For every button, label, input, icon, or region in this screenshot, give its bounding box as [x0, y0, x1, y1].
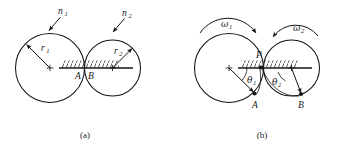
panel-b-contact-point-dot	[259, 65, 263, 69]
panel-a-left-radius-subscript: 1	[46, 47, 49, 54]
figure-svg: n 1 n 2 r 1 r 2 A B (a)	[0, 0, 352, 147]
panel-a-right-radius-label: r	[114, 46, 118, 56]
panel-b-left-point-leader	[256, 69, 261, 95]
panel-b-right-radius-arrow	[292, 68, 302, 93]
figure-container: n 1 n 2 r 1 r 2 A B (a)	[0, 0, 352, 147]
panel-b-point-a-label: A	[251, 100, 258, 110]
panel-a-contact-right-label: B	[88, 71, 94, 81]
panel-a-left-speed-subscript: 1	[65, 10, 68, 17]
panel-b-contact-point-label: P	[255, 50, 262, 60]
panel-a-right-speed-label: n	[122, 8, 127, 18]
panel-a-left-speed-arrow	[49, 17, 61, 31]
panel-a-left-speed-label: n	[58, 6, 63, 16]
panel-b-right-angle-arc	[278, 72, 286, 81]
panel-a: n 1 n 2 r 1 r 2 A B (a)	[16, 6, 141, 140]
panel-a-left-radius-label: r	[41, 43, 45, 53]
panel-b-right-angle-subscript: 2	[278, 81, 282, 88]
panel-b-caption: (b)	[257, 130, 268, 140]
panel-a-caption: (a)	[80, 130, 90, 140]
panel-b-left-angle-subscript: 1	[253, 79, 256, 86]
panel-b-left-omega-subscript: 1	[229, 23, 232, 30]
panel-a-right-speed-arrow	[113, 19, 125, 33]
panel-a-hatched-surface	[62, 61, 119, 68]
panel-b-left-omega-label: ω	[221, 19, 229, 29]
panel-b-point-b-dot	[299, 92, 303, 96]
panel-b: ω 1 ω 2 P θ 1 θ 2 A B (b)	[195, 18, 320, 140]
panel-a-right-radius-subscript: 2	[119, 50, 123, 57]
panel-a-contact-left-label: A	[74, 71, 81, 81]
panel-b-right-omega-label: ω	[293, 23, 301, 33]
panel-b-point-b-label: B	[298, 100, 304, 110]
panel-a-right-speed-subscript: 2	[129, 12, 133, 19]
panel-b-point-a-dot	[253, 92, 257, 96]
panel-b-right-omega-subscript: 2	[301, 27, 305, 34]
panel-b-hatched-surface	[241, 61, 298, 68]
